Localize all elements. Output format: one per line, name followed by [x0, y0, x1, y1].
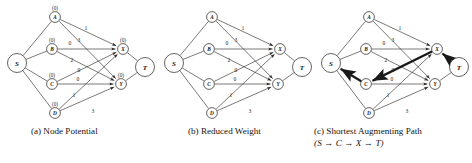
caption-a-text: (a) Node Potential — [31, 126, 98, 136]
svg-text:(0): (0) — [120, 37, 126, 44]
svg-text:B: B — [49, 46, 54, 52]
caption-panel-a: (a) Node Potential — [31, 126, 157, 138]
svg-text:0: 0 — [234, 76, 237, 82]
figure-container: 13020013SA(0)B(0)C(0)D(0)X(0)Y(0)T 13020… — [0, 0, 472, 163]
svg-text:A: A — [366, 14, 371, 20]
panel-node-potential: 13020013SA(0)B(0)C(0)D(0)X(0)Y(0)T — [0, 0, 157, 130]
svg-text:X: X — [120, 46, 125, 52]
svg-text:D: D — [209, 110, 214, 116]
svg-text:1: 1 — [399, 25, 402, 31]
svg-text:0: 0 — [392, 67, 395, 73]
svg-text:0: 0 — [383, 40, 386, 46]
svg-text:0: 0 — [391, 76, 394, 82]
caption-c-text: (c) Shortest Augmenting Path — [314, 126, 422, 136]
svg-text:D: D — [366, 110, 371, 116]
svg-text:1: 1 — [85, 25, 88, 31]
svg-text:1: 1 — [242, 25, 245, 31]
svg-text:(0): (0) — [52, 101, 58, 108]
svg-text:T: T — [143, 64, 148, 72]
svg-text:D: D — [52, 110, 57, 116]
svg-text:0: 0 — [77, 76, 80, 82]
svg-text:(0): (0) — [52, 5, 58, 12]
caption-b-text: (b) Reduced Weight — [188, 126, 261, 136]
svg-text:2: 2 — [71, 57, 74, 63]
svg-text:C: C — [364, 81, 368, 87]
svg-text:2: 2 — [228, 57, 231, 63]
svg-text:0: 0 — [69, 40, 72, 46]
svg-text:B: B — [363, 46, 368, 52]
svg-text:0: 0 — [78, 67, 81, 73]
svg-text:A: A — [209, 14, 214, 20]
svg-text:2: 2 — [385, 57, 388, 63]
svg-text:X: X — [277, 46, 282, 52]
svg-text:0: 0 — [226, 40, 229, 46]
svg-text:B: B — [206, 46, 211, 52]
svg-text:(0): (0) — [118, 72, 124, 79]
caption-c-path: (S → C → X → T) — [314, 138, 472, 150]
svg-text:X: X — [434, 46, 439, 52]
svg-text:1: 1 — [230, 92, 233, 98]
svg-text:C: C — [50, 81, 54, 87]
svg-text:S: S — [329, 60, 333, 68]
svg-text:S: S — [172, 60, 176, 68]
svg-text:3: 3 — [249, 108, 252, 114]
svg-text:1: 1 — [387, 92, 390, 98]
svg-text:3: 3 — [78, 37, 81, 43]
svg-text:C: C — [207, 81, 211, 87]
svg-text:0: 0 — [235, 67, 238, 73]
caption-panel-b: (b) Reduced Weight — [188, 126, 314, 138]
svg-text:3: 3 — [406, 108, 409, 114]
svg-text:T: T — [457, 64, 462, 72]
svg-text:1: 1 — [73, 92, 76, 98]
caption-panel-c: (c) Shortest Augmenting Path (S → C → X … — [314, 126, 472, 149]
svg-text:(0): (0) — [49, 72, 55, 79]
panel-reduced-weight: 13020013SABCDXYT — [157, 0, 314, 130]
svg-text:3: 3 — [392, 37, 395, 43]
svg-text:3: 3 — [92, 108, 95, 114]
caption-row: (a) Node Potential (b) Reduced Weight (c… — [0, 126, 472, 163]
svg-text:(0): (0) — [49, 37, 55, 44]
svg-text:3: 3 — [235, 37, 238, 43]
svg-text:A: A — [52, 14, 57, 20]
svg-text:T: T — [300, 64, 305, 72]
svg-text:S: S — [15, 60, 19, 68]
panel-shortest-augmenting-path: 13020013SABCDXYT — [314, 0, 471, 130]
